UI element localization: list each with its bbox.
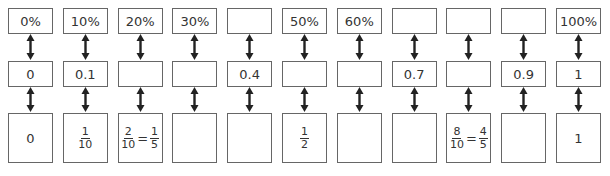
denominator: 5 bbox=[151, 139, 158, 151]
percent-box bbox=[392, 8, 437, 34]
percent-box: 60% bbox=[337, 8, 382, 34]
numerator: 8 bbox=[452, 126, 461, 139]
fraction-box: 8 10 = 4 5 bbox=[446, 113, 491, 163]
double-arrow-icon bbox=[193, 87, 196, 112]
fraction-box: 2 10 = 1 5 bbox=[118, 113, 163, 163]
fraction-box: 0 bbox=[8, 113, 53, 163]
percent-box bbox=[227, 8, 272, 34]
decimal-box: 0.7 bbox=[392, 61, 437, 87]
fraction: 2 10 bbox=[121, 126, 135, 151]
double-arrow-icon bbox=[358, 87, 361, 112]
fraction-box: 1 bbox=[556, 113, 601, 163]
numerator: 1 bbox=[300, 126, 309, 139]
percent-box: 10% bbox=[63, 8, 108, 34]
decimal-box: 0.9 bbox=[501, 61, 546, 87]
column-1: 10% 0.1 1 10 bbox=[63, 0, 108, 176]
decimal-box bbox=[118, 61, 163, 87]
simplified-fraction: 4 5 bbox=[479, 126, 488, 151]
double-arrow-icon bbox=[29, 34, 32, 60]
double-arrow-icon bbox=[303, 34, 306, 60]
decimal-box bbox=[172, 61, 217, 87]
double-arrow-icon bbox=[413, 34, 416, 60]
double-arrow-icon bbox=[248, 87, 251, 112]
decimal-box bbox=[446, 61, 491, 87]
double-arrow-icon bbox=[577, 87, 580, 112]
denominator: 10 bbox=[450, 139, 464, 151]
fraction-box: 1 10 bbox=[63, 113, 108, 163]
percent-box bbox=[446, 8, 491, 34]
fraction: 1 10 bbox=[78, 126, 92, 151]
fraction-box bbox=[172, 113, 217, 163]
column-7: 0.7 bbox=[392, 0, 437, 176]
percent-box: 30% bbox=[172, 8, 217, 34]
fraction: 1 2 bbox=[300, 126, 309, 151]
fraction: 8 10 bbox=[450, 126, 464, 151]
denominator: 5 bbox=[480, 139, 487, 151]
decimal-box: 1 bbox=[556, 61, 601, 87]
column-0: 0% 0 0 bbox=[8, 0, 53, 176]
column-8: 8 10 = 4 5 bbox=[446, 0, 491, 176]
column-6: 60% bbox=[337, 0, 382, 176]
denominator: 10 bbox=[78, 139, 92, 151]
decimal-box: 0.4 bbox=[227, 61, 272, 87]
fraction-box: 1 2 bbox=[282, 113, 327, 163]
denominator: 2 bbox=[301, 139, 308, 151]
double-arrow-icon bbox=[139, 34, 142, 60]
numerator: 2 bbox=[124, 126, 133, 139]
fraction-box bbox=[337, 113, 382, 163]
fraction-box bbox=[227, 113, 272, 163]
fraction-box bbox=[392, 113, 437, 163]
double-arrow-icon bbox=[358, 34, 361, 60]
double-arrow-icon bbox=[467, 87, 470, 112]
double-arrow-icon bbox=[467, 34, 470, 60]
percent-box: 50% bbox=[282, 8, 327, 34]
double-arrow-icon bbox=[139, 87, 142, 112]
equals-sign: = bbox=[466, 131, 477, 146]
denominator: 10 bbox=[121, 139, 135, 151]
column-4: 0.4 bbox=[227, 0, 272, 176]
double-arrow-icon bbox=[193, 34, 196, 60]
double-arrow-icon bbox=[522, 34, 525, 60]
double-arrow-icon bbox=[522, 87, 525, 112]
decimal-box: 0 bbox=[8, 61, 53, 87]
double-arrow-icon bbox=[29, 87, 32, 112]
numerator: 1 bbox=[150, 126, 159, 139]
column-3: 30% bbox=[172, 0, 217, 176]
double-arrow-icon bbox=[303, 87, 306, 112]
decimal-box bbox=[337, 61, 382, 87]
numerator: 4 bbox=[479, 126, 488, 139]
equals-sign: = bbox=[137, 131, 148, 146]
percent-box: 0% bbox=[8, 8, 53, 34]
column-9: 0.9 bbox=[501, 0, 546, 176]
double-arrow-icon bbox=[577, 34, 580, 60]
column-2: 20% 2 10 = 1 5 bbox=[118, 0, 163, 176]
column-5: 50% 1 2 bbox=[282, 0, 327, 176]
decimal-box bbox=[282, 61, 327, 87]
simplified-fraction: 1 5 bbox=[150, 126, 159, 151]
column-10: 100% 1 1 bbox=[556, 0, 601, 176]
double-arrow-icon bbox=[84, 87, 87, 112]
numerator: 1 bbox=[81, 126, 90, 139]
percent-box bbox=[501, 8, 546, 34]
double-arrow-icon bbox=[248, 34, 251, 60]
double-arrow-icon bbox=[84, 34, 87, 60]
percent-box: 100% bbox=[556, 8, 601, 34]
double-arrow-icon bbox=[413, 87, 416, 112]
decimal-box: 0.1 bbox=[63, 61, 108, 87]
percent-box: 20% bbox=[118, 8, 163, 34]
fraction-box bbox=[501, 113, 546, 163]
